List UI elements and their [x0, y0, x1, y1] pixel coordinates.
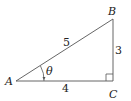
- triangle-diagram: A B C 5 3 4 θ: [0, 0, 131, 101]
- vertex-label-a: A: [4, 75, 13, 88]
- side-label-bc: 3: [115, 44, 122, 57]
- vertex-label-b: B: [107, 5, 116, 18]
- side-label-ab: 5: [63, 36, 70, 49]
- angle-label-theta: θ: [46, 65, 53, 78]
- triangle-shape: [16, 19, 113, 81]
- right-angle-marker: [106, 74, 113, 81]
- vertex-label-c: C: [109, 88, 118, 101]
- side-label-ac: 4: [62, 82, 69, 95]
